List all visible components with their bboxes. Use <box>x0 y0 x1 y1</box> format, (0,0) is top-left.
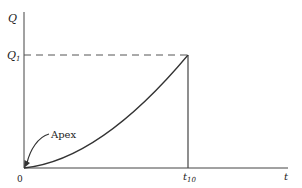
q-curve <box>24 55 188 168</box>
y-axis-label: Q <box>8 12 17 25</box>
diagram-canvas: Q Q1 0 t10 t Apex <box>0 0 302 188</box>
apex-label: Apex <box>50 129 77 140</box>
apex-arrow <box>27 134 49 163</box>
q1-tick-label: Q1 <box>7 49 21 63</box>
t10-tick-label: t10 <box>183 171 196 184</box>
x-axis-label: t <box>284 171 289 182</box>
origin-label: 0 <box>17 174 23 184</box>
